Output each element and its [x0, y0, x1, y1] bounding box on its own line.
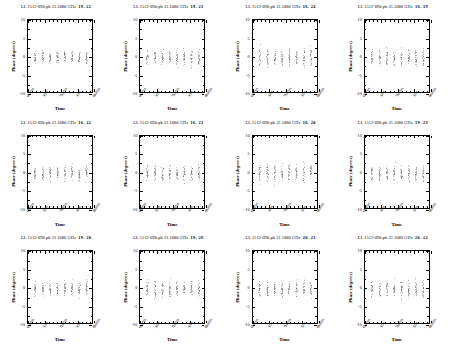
data-point [184, 58, 185, 59]
y-tick-mark [253, 270, 256, 271]
data-point [163, 175, 164, 176]
y-tick-mark [91, 29, 93, 30]
data-point [35, 63, 36, 64]
y-tick-mark [365, 288, 368, 289]
x-tick-mark [140, 251, 141, 254]
y-tick-mark [314, 173, 317, 174]
x-tick-mark [381, 20, 382, 23]
x-tick-mark [194, 251, 195, 253]
y-tick-mark [253, 261, 255, 262]
x-tick-mark [298, 20, 299, 22]
x-tick-mark [73, 251, 74, 253]
data-point [184, 166, 185, 167]
y-tick-label: 10 [237, 248, 250, 253]
data-point [199, 171, 200, 172]
x-tick-mark [257, 251, 258, 253]
data-point [372, 58, 373, 59]
data-point [289, 294, 290, 295]
data-point [423, 60, 424, 61]
x-tick-mark [161, 136, 162, 138]
y-tick-mark [314, 270, 317, 271]
data-point [289, 62, 290, 63]
x-tick-mark [390, 206, 391, 208]
panel-title-text: LL 1512-090.pb 31.1080 GHz [358, 235, 413, 240]
x-tick-mark [61, 136, 62, 139]
data-point [198, 284, 199, 285]
data-point [260, 63, 261, 64]
data-point [191, 58, 192, 59]
x-tick-mark [373, 251, 374, 253]
y-tick-label: -5 [12, 304, 25, 309]
data-point [42, 169, 43, 170]
data-point [184, 287, 185, 288]
data-point [64, 60, 65, 61]
data-point [275, 51, 276, 52]
data-point [65, 173, 66, 174]
data-point [275, 53, 276, 54]
data-point [416, 285, 417, 286]
x-tick-mark [377, 91, 378, 93]
data-point [72, 60, 73, 61]
data-point [304, 57, 305, 58]
data-point [311, 294, 312, 295]
panel-title: LL 1512-090.pb 31.1080 GHz 19- 20 [0, 235, 112, 240]
data-point [155, 61, 156, 62]
data-point [49, 62, 50, 63]
data-point [394, 65, 395, 66]
data-point [79, 298, 80, 299]
panel-title: LL 1512-090.pb 31.1080 GHz 16- 19 [337, 4, 449, 9]
y-tick-label: 5 [349, 35, 362, 40]
panel-baseline-label: 20- 21 [303, 235, 316, 240]
data-point [50, 168, 51, 169]
panel-title-text: LL 1512-090.pb 31.1080 GHz [21, 120, 76, 125]
y-tick-mark [28, 29, 30, 30]
x-tick-mark [253, 20, 254, 23]
panel-title-text: LL 1512-090.pb 31.1080 GHz [21, 235, 76, 240]
data-point [50, 286, 51, 287]
x-tick-mark [310, 251, 311, 253]
data-point [176, 63, 177, 64]
data-point [50, 59, 51, 60]
data-point [379, 51, 380, 52]
data-point [35, 55, 36, 56]
data-point [71, 169, 72, 170]
data-point [162, 171, 163, 172]
y-tick-label: 5 [237, 35, 250, 40]
data-point [64, 55, 65, 56]
data-point [275, 49, 276, 50]
y-tick-mark [365, 76, 368, 77]
x-tick-mark [94, 251, 95, 254]
data-point [183, 48, 184, 49]
y-tick-mark [253, 288, 256, 289]
x-tick-mark [57, 206, 58, 208]
x-tick-mark [298, 91, 299, 93]
y-tick-mark [253, 307, 256, 308]
data-point [282, 60, 283, 61]
data-point [260, 65, 261, 66]
data-point [43, 53, 44, 54]
y-tick-label: 10 [124, 17, 137, 22]
data-point [303, 293, 304, 294]
y-tick-label: -5 [124, 72, 137, 77]
x-tick-mark [177, 20, 178, 22]
panel-title-text: LL 1512-090.pb 31.1080 GHz [246, 120, 301, 125]
data-point [259, 284, 260, 285]
data-point [86, 54, 87, 55]
data-point [416, 294, 417, 295]
data-point [409, 177, 410, 178]
x-axis-title: Time [27, 106, 93, 111]
x-tick-mark [310, 206, 311, 208]
data-point [386, 64, 387, 65]
data-point [64, 171, 65, 172]
x-tick-mark [94, 20, 95, 23]
data-point [304, 60, 305, 61]
x-tick-mark [144, 20, 145, 22]
data-point [416, 66, 417, 67]
plot-panel: LL 1512-090.pb 31.1080 GHz 16- 23Phase (… [112, 116, 224, 232]
data-point [282, 163, 283, 164]
x-tick-mark [40, 251, 41, 253]
data-point [297, 279, 298, 280]
x-tick-mark [53, 251, 54, 253]
data-point [372, 55, 373, 56]
data-point [297, 171, 298, 172]
